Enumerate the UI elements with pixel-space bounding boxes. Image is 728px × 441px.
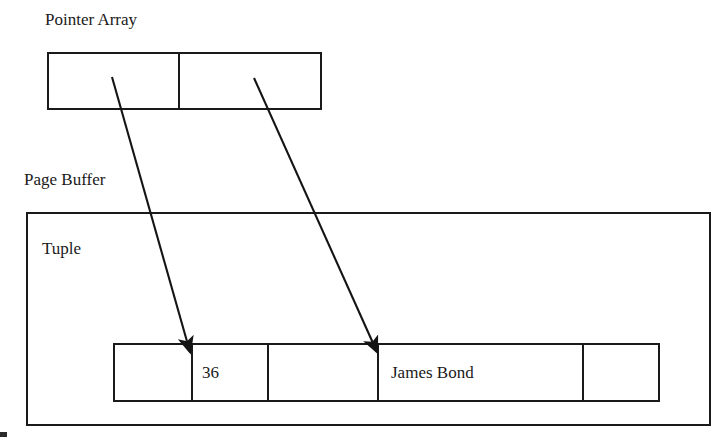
- tuple-box: [113, 343, 660, 402]
- tuple-cell-value-james-bond: James Bond: [391, 364, 474, 381]
- diagram-canvas: Pointer Array Page Buffer Tuple 36 James…: [0, 0, 728, 441]
- pointer-array-box: [47, 52, 322, 110]
- tuple-cell-divider-4: [582, 343, 584, 402]
- tuple-cell-divider-2: [267, 343, 269, 402]
- tuple-cell-divider-1: [191, 343, 193, 402]
- pointer-array-label: Pointer Array: [45, 11, 137, 28]
- tuple-cell-divider-3: [377, 343, 379, 402]
- tuple-label: Tuple: [42, 240, 81, 257]
- tuple-cell-value-36: 36: [202, 364, 219, 381]
- pointer-array-cell-divider: [178, 52, 180, 110]
- scan-artifact-mark: [0, 432, 7, 437]
- page-buffer-label: Page Buffer: [24, 171, 105, 188]
